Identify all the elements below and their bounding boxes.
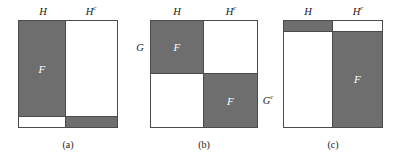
panel-a-region-lower-right bbox=[66, 116, 117, 127]
panel-b-region-lower-right: F bbox=[204, 74, 257, 127]
panel-b-region-upper-right bbox=[204, 21, 257, 74]
figure-venn-partition-diagram: H Hc F (a) H Hc G Gc F bbox=[0, 0, 404, 160]
panel-c-region-lower-left bbox=[284, 32, 333, 127]
panel-b-set-label-f-upper: F bbox=[174, 42, 181, 53]
panel-a-column-label-h: H bbox=[39, 7, 47, 18]
panel-c-region-upper-left bbox=[284, 21, 333, 32]
panel-c-caption: (c) bbox=[327, 140, 338, 150]
panel-b-row-label-g-complement-sup: c bbox=[270, 93, 273, 101]
panel-c-set-label-f: F bbox=[354, 74, 361, 85]
panel-b-column-label-h-complement-base: H bbox=[226, 6, 234, 17]
panel-a-column-label-h-complement-base: H bbox=[86, 6, 94, 17]
panel-b-region-lower-left bbox=[151, 74, 204, 127]
panel-b-column-label-h-complement-sup: c bbox=[233, 4, 236, 12]
panel-b-row-label-g-complement: Gc bbox=[263, 96, 274, 107]
panel-a-column-label-h-complement-sup: c bbox=[93, 4, 96, 12]
panel-a-box: F bbox=[18, 20, 118, 128]
panel-c-column-label-h-complement-base: H bbox=[353, 6, 361, 17]
panel-b-region-upper-left: F bbox=[151, 21, 204, 74]
panel-a-region-upper-right bbox=[66, 21, 117, 116]
panel-a-region-upper-left: F bbox=[19, 21, 66, 116]
panel-b-set-label-f-lower: F bbox=[227, 95, 234, 106]
panel-b-column-label-h: H bbox=[173, 7, 181, 18]
panel-c-box: F bbox=[283, 20, 383, 128]
panel-c-column-label-h-complement-sup: c bbox=[360, 4, 363, 12]
panel-b-column-label-h-complement: Hc bbox=[226, 7, 237, 18]
panel-a-set-label-f: F bbox=[39, 63, 46, 74]
panel-b-row-label-g-complement-base: G bbox=[263, 95, 271, 106]
panel-b-box: F F bbox=[150, 20, 258, 128]
panel-c-region-upper-right bbox=[333, 21, 382, 32]
panel-c-column-label-h-complement: Hc bbox=[353, 7, 364, 18]
panel-a-column-label-h-complement: Hc bbox=[86, 7, 97, 18]
panel-a-region-lower-left bbox=[19, 116, 66, 127]
panel-b-caption: (b) bbox=[198, 140, 210, 150]
panel-c-column-label-h: H bbox=[304, 7, 312, 18]
panel-b-row-label-g: G bbox=[136, 43, 144, 54]
panel-c-region-lower-right: F bbox=[333, 32, 382, 127]
panel-a-caption: (a) bbox=[62, 140, 73, 150]
